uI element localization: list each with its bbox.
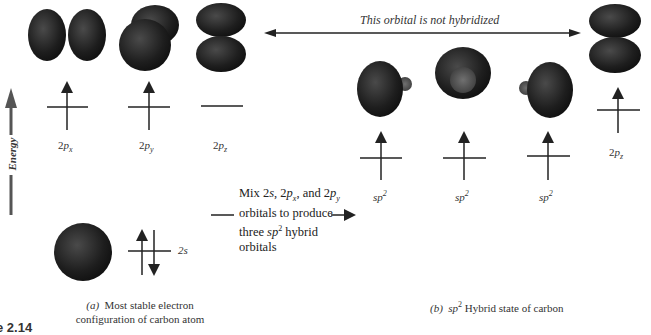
label-2pz: 2pz bbox=[213, 139, 227, 154]
not-hybridized-arrow[interactable] bbox=[264, 29, 581, 37]
mix-instruction-text: Mix 2s, 2px, and 2py orbitals to produce… bbox=[239, 186, 340, 255]
level-unhybridized-2pz bbox=[597, 90, 640, 133]
orbital-2py bbox=[119, 5, 179, 71]
level-sp2-3 bbox=[527, 134, 570, 180]
energy-axis-label: Energy bbox=[6, 134, 18, 174]
orbital-unhybridized-2pz bbox=[589, 4, 641, 73]
label-2py: 2py bbox=[139, 139, 154, 154]
orbital-2px bbox=[28, 9, 106, 61]
label-2s: 2s bbox=[178, 244, 188, 256]
label-sp2-1: sp2 bbox=[373, 189, 387, 203]
label-unhybridized-2pz: 2pz bbox=[609, 146, 623, 161]
level-sp2-1 bbox=[360, 134, 402, 180]
orbital-2pz bbox=[196, 3, 246, 72]
sp2-hybridization-figure: This orbital is not hybridized Energy 2p… bbox=[0, 0, 651, 335]
level-2s bbox=[128, 230, 171, 275]
orbital-sp2-2 bbox=[435, 47, 491, 99]
figure-number: e 2.14 bbox=[0, 320, 32, 335]
label-sp2-2: sp2 bbox=[455, 189, 469, 203]
label-sp2-3: sp2 bbox=[539, 189, 553, 203]
diagram-graphics bbox=[0, 0, 651, 335]
orbital-sp2-1 bbox=[357, 61, 412, 117]
not-hybridized-label: This orbital is not hybridized bbox=[360, 13, 499, 28]
orbital-2s bbox=[54, 223, 112, 281]
level-2py bbox=[128, 84, 170, 130]
orbital-sp2-3 bbox=[519, 62, 573, 118]
caption-a: (a) Most stable electron configuration o… bbox=[60, 298, 220, 326]
level-2px bbox=[47, 84, 88, 130]
label-2px: 2px bbox=[58, 139, 73, 154]
level-sp2-2 bbox=[443, 134, 486, 180]
caption-b: (b) sp2 Hybrid state of carbon bbox=[430, 298, 610, 315]
